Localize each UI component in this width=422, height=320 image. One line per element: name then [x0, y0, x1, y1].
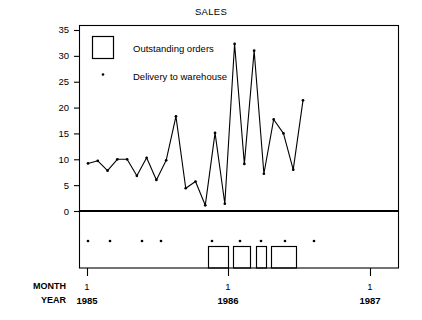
sales-data-point-markers: [87, 43, 305, 207]
legend-dot-marker: [102, 73, 105, 76]
delivery-to-warehouse-dots: [87, 240, 316, 243]
sales-chart-figure: SALES 35 30 25 20 15 10 5 0 Outstanding …: [0, 0, 422, 320]
event-panel-frame: [80, 211, 399, 268]
outstanding-orders-bars: [209, 247, 297, 269]
legend-box-marker: [93, 37, 114, 59]
chart-canvas: [0, 0, 422, 320]
y-axis-ticks: [74, 31, 79, 212]
plot-frame: [80, 26, 399, 212]
x-axis-ticks: [88, 268, 371, 276]
